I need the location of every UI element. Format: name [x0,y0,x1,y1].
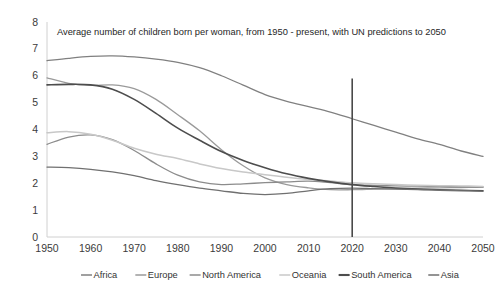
legend-label: South America [351,270,412,280]
y-axis: 012345678 [32,16,38,243]
y-tick-label: 4 [32,123,38,135]
x-tick-label: 2030 [384,242,408,254]
chart-title: Average number of children born per woma… [57,27,446,37]
y-tick-label: 0 [32,231,38,243]
y-tick-label: 1 [32,204,38,216]
fertility-line-chart: 012345678 195019601970198019902000201020… [0,0,498,295]
x-tick-label: 2010 [297,242,321,254]
chart-background [0,0,498,295]
x-tick-label: 2040 [428,242,452,254]
legend-label: Europe [148,270,178,280]
y-tick-label: 2 [32,177,38,189]
x-tick-label: 1970 [123,242,147,254]
chart-title-text: Average number of children born per woma… [57,27,446,37]
x-tick-label: 1950 [35,242,59,254]
x-tick-label: 1960 [79,242,103,254]
x-tick-label: 2000 [253,242,277,254]
legend-label: Oceania [292,270,327,280]
legend-label: Africa [94,270,119,280]
y-tick-label: 8 [32,16,38,28]
x-tick-label: 1990 [210,242,234,254]
x-tick-label: 2050 [471,242,495,254]
legend-label: North America [202,270,262,280]
y-tick-label: 3 [32,150,38,162]
y-tick-label: 5 [32,96,38,108]
x-tick-label: 2020 [341,242,365,254]
y-tick-label: 6 [32,69,38,81]
chart-container: 012345678 195019601970198019902000201020… [0,0,498,295]
x-tick-label: 1980 [166,242,190,254]
legend-label: Asia [441,270,460,280]
y-tick-label: 7 [32,42,38,54]
